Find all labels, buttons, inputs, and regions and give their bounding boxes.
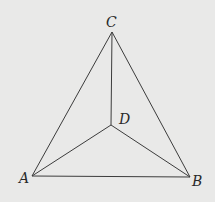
label-c: C bbox=[106, 14, 117, 30]
vertex-labels: A B C D bbox=[17, 14, 202, 189]
triangle-diagram: A B C D bbox=[0, 0, 215, 202]
label-a: A bbox=[17, 170, 29, 186]
edge-ca bbox=[32, 32, 112, 176]
edge-ab bbox=[32, 176, 190, 177]
edge-ad bbox=[32, 125, 111, 176]
edge-bc bbox=[112, 32, 190, 177]
label-d: D bbox=[118, 111, 130, 127]
geometry-figure: A B C D bbox=[0, 0, 215, 202]
edge-bd bbox=[111, 125, 190, 177]
label-b: B bbox=[191, 173, 202, 189]
edges bbox=[32, 32, 190, 177]
edge-cd bbox=[111, 32, 112, 125]
